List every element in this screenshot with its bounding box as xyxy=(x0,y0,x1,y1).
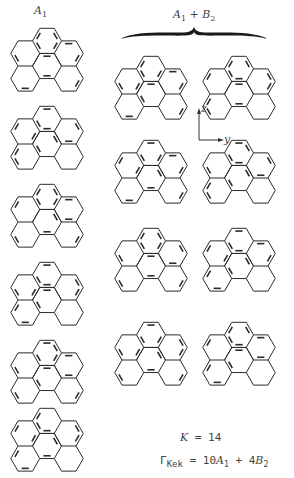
b-sub: 2 xyxy=(263,460,268,469)
benzoperylene-molecule-icon xyxy=(196,316,282,396)
kekule-structure-12 xyxy=(196,222,282,302)
benzoperylene-molecule-icon xyxy=(4,178,90,258)
kekule-structure-1 xyxy=(4,22,90,102)
benzoperylene-molecule-icon xyxy=(108,134,194,214)
label-a1-letter: A xyxy=(34,4,42,17)
k-symbol: K xyxy=(180,431,188,444)
gamma-sub: Kek xyxy=(167,459,183,469)
curly-brace xyxy=(118,26,270,40)
kekule-count: K = 14 xyxy=(180,431,221,444)
gamma-kek-equation: ΓKek = 10A1 + 4B2 xyxy=(160,454,268,469)
benzoperylene-molecule-icon xyxy=(196,134,282,214)
kekule-structure-9 xyxy=(108,134,194,214)
label-b-sub: 2 xyxy=(210,14,215,23)
label-a-letter: A xyxy=(173,8,181,21)
kekule-structure-2 xyxy=(4,100,90,180)
benzoperylene-molecule-icon xyxy=(4,402,90,478)
label-a1-sub: 1 xyxy=(42,10,47,19)
kekule-structure-4 xyxy=(4,256,90,336)
kekule-structure-14 xyxy=(196,316,282,396)
benzoperylene-molecule-icon xyxy=(196,222,282,302)
benzoperylene-molecule-icon xyxy=(4,256,90,336)
kekule-structure-3 xyxy=(4,178,90,258)
axis-z-label: z xyxy=(201,102,207,115)
benzoperylene-molecule-icon xyxy=(108,50,194,130)
kekule-structure-11 xyxy=(108,222,194,302)
kekule-structure-6 xyxy=(4,402,90,478)
kekule-structure-10 xyxy=(196,134,282,214)
label-a1-b2-column: A1 + B2 xyxy=(173,8,215,23)
kekule-structure-13 xyxy=(108,316,194,396)
kekule-structure-7 xyxy=(108,50,194,130)
gamma-eq: = 10 xyxy=(183,454,216,467)
benzoperylene-molecule-icon xyxy=(4,22,90,102)
benzoperylene-molecule-icon xyxy=(108,316,194,396)
label-a1-column: A1 xyxy=(34,4,47,19)
axis-y-label: y xyxy=(224,133,230,146)
coordinate-axes: z y xyxy=(196,106,228,144)
gamma-symbol: Γ xyxy=(160,454,167,467)
benzoperylene-molecule-icon xyxy=(4,100,90,180)
plus-four: + 4 xyxy=(229,454,256,467)
a-symbol: A xyxy=(216,454,224,467)
k-value: = 14 xyxy=(188,431,221,444)
label-plus: + xyxy=(186,8,202,21)
benzoperylene-molecule-icon xyxy=(108,222,194,302)
